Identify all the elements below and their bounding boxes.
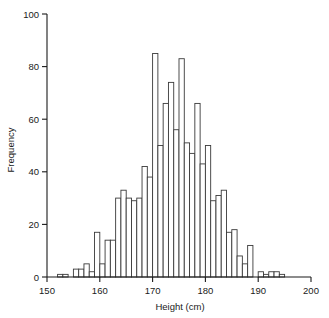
y-tick-label: 100 xyxy=(23,9,39,20)
histogram-bar xyxy=(227,232,232,277)
x-tick-label: 200 xyxy=(303,285,319,296)
y-axis xyxy=(42,14,47,277)
histogram-bar xyxy=(179,59,184,277)
histogram-bar xyxy=(237,256,242,277)
histogram-bar xyxy=(269,272,274,277)
x-tick-label: 150 xyxy=(39,285,55,296)
histogram-bar xyxy=(147,177,152,277)
histogram-bar xyxy=(274,272,279,277)
histogram-bar xyxy=(126,198,131,277)
bars-group xyxy=(58,53,285,277)
y-tick-label: 0 xyxy=(34,272,39,283)
histogram-bar xyxy=(142,167,147,277)
histogram-bar xyxy=(184,143,189,277)
histogram-bar xyxy=(258,272,263,277)
histogram-bar xyxy=(168,82,173,277)
x-tick-label: 160 xyxy=(92,285,108,296)
histogram-bar xyxy=(84,264,89,277)
histogram-bar xyxy=(105,240,110,277)
histogram-bar xyxy=(153,53,158,277)
histogram-bar xyxy=(95,232,100,277)
y-tick-label: 40 xyxy=(28,166,39,177)
histogram-bar xyxy=(131,201,136,277)
y-axis-title: Frequency xyxy=(5,127,16,172)
histogram-bar xyxy=(158,146,163,278)
histogram-bar xyxy=(216,195,221,277)
histogram-bar xyxy=(211,201,216,277)
x-axis xyxy=(47,277,311,282)
x-tick-label: 190 xyxy=(250,285,266,296)
histogram-bar xyxy=(232,230,237,277)
histogram-bar xyxy=(100,264,105,277)
histogram-bar xyxy=(248,245,253,277)
histogram-bar xyxy=(89,272,94,277)
histogram-bar xyxy=(163,103,168,277)
histogram-bar xyxy=(190,153,195,277)
histogram-bar xyxy=(121,190,126,277)
y-tick-label: 60 xyxy=(28,114,39,125)
y-tick-label: 80 xyxy=(28,61,39,72)
histogram-bar xyxy=(200,164,205,277)
histogram-svg: 020406080100150160170180190200 Height (c… xyxy=(0,0,329,318)
histogram-bar xyxy=(195,103,200,277)
y-tick-label: 20 xyxy=(28,219,39,230)
x-tick-label: 180 xyxy=(197,285,213,296)
histogram-bar xyxy=(205,146,210,278)
histogram-bar xyxy=(110,240,115,277)
x-tick-label: 170 xyxy=(145,285,161,296)
histogram-bar xyxy=(174,130,179,277)
histogram-bar xyxy=(137,198,142,277)
histogram-figure: 020406080100150160170180190200 Height (c… xyxy=(0,0,329,318)
x-axis-title: Height (cm) xyxy=(155,301,204,312)
histogram-bar xyxy=(73,269,78,277)
histogram-bar xyxy=(221,190,226,277)
histogram-bar xyxy=(79,269,84,277)
histogram-bar xyxy=(242,264,247,277)
histogram-bar xyxy=(116,198,121,277)
